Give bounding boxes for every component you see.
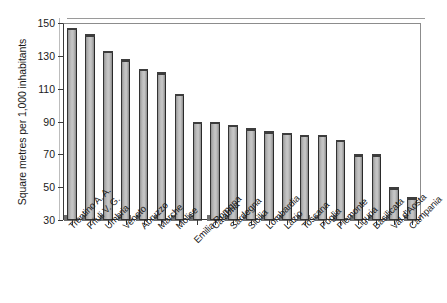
bar bbox=[85, 34, 95, 220]
y-axis-tick-label: 70 bbox=[0, 149, 55, 159]
bar bbox=[264, 131, 274, 220]
y-axis-tick-label: 30 bbox=[0, 215, 55, 225]
bar bbox=[139, 69, 149, 220]
bar bbox=[157, 72, 167, 220]
y-axis-tick-label: 90 bbox=[0, 117, 55, 127]
y-axis-tick-label: 50 bbox=[0, 182, 55, 192]
bar bbox=[121, 59, 131, 220]
plot-area bbox=[63, 23, 421, 220]
bar bbox=[300, 135, 310, 220]
y-axis-tick-label: 130 bbox=[0, 51, 55, 61]
y-axis-tick-mark bbox=[58, 220, 63, 221]
bar bbox=[193, 122, 203, 221]
y-axis-tick-label: 150 bbox=[0, 18, 55, 28]
bar bbox=[67, 28, 77, 220]
bar bbox=[210, 122, 220, 221]
x-axis-tick-mark bbox=[197, 220, 198, 225]
bar-chart-figure: Square metres per 1,000 inhabitants 3050… bbox=[0, 0, 447, 303]
y-axis-tick-label: 110 bbox=[0, 84, 55, 94]
